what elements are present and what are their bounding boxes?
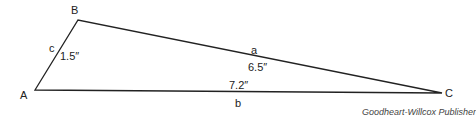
side-length-a: 6.5″	[248, 62, 267, 73]
side-label-c: c	[49, 43, 55, 54]
vertex-label-c: C	[445, 88, 453, 99]
vertex-label-a: A	[20, 90, 27, 101]
side-label-a: a	[251, 45, 257, 56]
side-length-b: 7.2″	[229, 80, 248, 91]
vertex-label-b: B	[71, 5, 78, 16]
side-label-b: b	[235, 98, 241, 109]
side-length-c: 1.5″	[60, 51, 79, 62]
publisher-credit: Goodheart-Willcox Publisher	[362, 107, 476, 117]
